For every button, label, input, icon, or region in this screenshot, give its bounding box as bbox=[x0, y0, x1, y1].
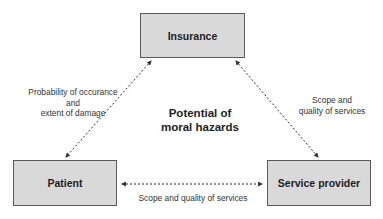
edge-label-line: and bbox=[14, 98, 132, 109]
node-service-provider-label: Service provider bbox=[278, 177, 360, 189]
edge-label-line: extent of damage bbox=[14, 108, 132, 119]
node-insurance-label: Insurance bbox=[168, 30, 218, 42]
edge-label-insurance-patient: Probability of occurance and extent of d… bbox=[14, 87, 132, 119]
node-service-provider: Service provider bbox=[267, 160, 371, 206]
edge-label-line: quality of services bbox=[282, 106, 382, 117]
edge-label-line: Scope and quality of services bbox=[130, 193, 256, 204]
edge-label-insurance-provider: Scope and quality of services bbox=[282, 95, 382, 116]
edge-label-patient-provider: Scope and quality of services bbox=[130, 193, 256, 204]
node-patient-label: Patient bbox=[47, 177, 82, 189]
center-title-line: Potential of bbox=[140, 106, 260, 120]
edge-label-line: Scope and bbox=[282, 95, 382, 106]
center-title: Potential of moral hazards bbox=[140, 106, 260, 134]
node-patient: Patient bbox=[13, 160, 117, 206]
edge-label-line: Probability of occurance bbox=[14, 87, 132, 98]
node-insurance: Insurance bbox=[140, 13, 245, 58]
center-title-line: moral hazards bbox=[140, 120, 260, 134]
